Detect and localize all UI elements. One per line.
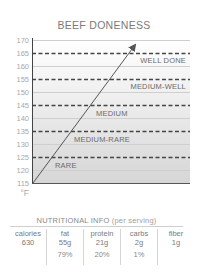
band-label-well-done: WELL DONE <box>140 56 186 65</box>
nutrient-value: 55g <box>47 238 83 247</box>
tick-label: 170 <box>16 36 29 45</box>
nutrient-label: calories <box>10 229 46 238</box>
nutrition-col-protein: protein 21g 20% <box>84 229 121 265</box>
tick-label: 165 <box>16 49 29 58</box>
nutrition-subtitle: (per serving) <box>112 216 157 225</box>
nutrition-col-carbs: carbs 2g 1% <box>121 229 158 265</box>
nutrient-label: fat <box>47 229 83 238</box>
nutrient-value: 21g <box>84 238 120 247</box>
tick-label: 145 <box>16 101 29 110</box>
nutrition-title: NUTRITIONAL INFO (per serving) <box>10 216 183 227</box>
nutrition-table: calories 630 fat 55g 79% protein 21g 20%… <box>10 229 194 265</box>
tick-label: 155 <box>16 75 29 84</box>
unit-label: °F <box>20 188 29 198</box>
band-label-medium-rare: MEDIUM-RARE <box>74 135 130 144</box>
tick-label: 135 <box>16 127 29 136</box>
band-label-rare: RARE <box>55 161 77 170</box>
tick-label: 120 <box>16 166 29 175</box>
tick-label: 160 <box>16 62 29 71</box>
tick-label: 115 <box>17 179 29 188</box>
nutrition-col-fiber: fiber 1g <box>158 229 194 265</box>
tick-label: 130 <box>16 140 29 149</box>
nutrient-label: fiber <box>158 229 194 238</box>
tick-label: 140 <box>16 114 29 123</box>
nutrient-percent: 1% <box>121 250 157 259</box>
nutrient-value: 2g <box>121 238 157 247</box>
nutrition-col-fat: fat 55g 79% <box>47 229 84 265</box>
nutrient-percent: 20% <box>84 250 120 259</box>
tick-label: 125 <box>16 153 29 162</box>
tick-label: 150 <box>16 88 29 97</box>
nutrition-col-calories: calories 630 <box>10 229 47 265</box>
doneness-chart: 170 165 160 155 150 145 140 135 130 125 … <box>0 0 208 215</box>
nutrition-title-text: NUTRITIONAL INFO <box>37 216 110 225</box>
nutrient-label: carbs <box>121 229 157 238</box>
nutrient-value: 630 <box>10 238 46 247</box>
nutrient-value: 1g <box>158 238 194 247</box>
band-label-medium-well: MEDIUM-WELL <box>130 82 186 91</box>
y-tick-labels: 170 165 160 155 150 145 140 135 130 125 … <box>16 36 29 188</box>
band-label-medium: MEDIUM <box>96 109 128 118</box>
nutrient-label: protein <box>84 229 120 238</box>
nutrient-percent: 79% <box>47 250 83 259</box>
